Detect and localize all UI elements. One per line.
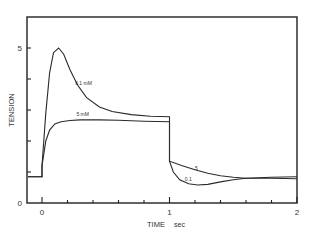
series-group — [28, 48, 297, 185]
chart-container: 01205TIMEsecTENSION0.1 mM5 mM50.1 — [0, 0, 311, 234]
curve-annotation: 0.1 — [185, 176, 192, 182]
plot-frame — [27, 17, 297, 203]
axis-ticks — [27, 48, 297, 203]
x-axis-unit: sec — [174, 221, 185, 228]
tension-time-chart: 01205TIMEsecTENSION0.1 mM5 mM50.1 — [0, 0, 311, 234]
series-line-01-mm — [28, 48, 297, 185]
curve-annotation: 5 mM — [76, 111, 89, 117]
x-tick-label: 1 — [167, 208, 172, 217]
curve-annotation: 0.1 mM — [75, 80, 92, 86]
y-axis-label: TENSION — [7, 93, 16, 126]
curve-annotation: 5 — [195, 165, 198, 171]
x-axis-label: TIME — [147, 220, 165, 229]
labels-group: 01205TIMEsecTENSION0.1 mM5 mM50.1 — [7, 44, 300, 229]
x-tick-label: 2 — [295, 208, 300, 217]
y-tick-label: 0 — [18, 199, 23, 208]
y-tick-label: 5 — [18, 44, 23, 53]
x-tick-label: 0 — [40, 208, 45, 217]
series-line-5-mm — [28, 120, 297, 179]
